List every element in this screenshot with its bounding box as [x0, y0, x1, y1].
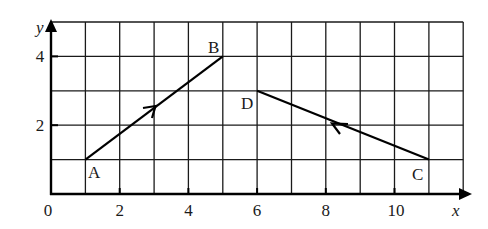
point-label-d: D [241, 94, 253, 113]
axes [45, 19, 472, 200]
grid [51, 22, 463, 194]
coordinate-diagram: 0 2 4 6 8 10 2 4 y x A B C D [0, 0, 488, 229]
point-label-a: A [88, 163, 101, 182]
y-axis-arrow-icon [45, 19, 57, 32]
y-tick-2: 2 [36, 116, 45, 135]
x-tick-8: 8 [322, 201, 331, 220]
x-tick-6: 6 [253, 201, 262, 220]
x-tick-2: 2 [115, 201, 124, 220]
point-label-b: B [208, 38, 219, 57]
y-tick-4: 4 [36, 47, 45, 66]
point-label-c: C [412, 165, 423, 184]
y-axis-label: y [34, 18, 44, 37]
x-tick-0: 0 [44, 201, 53, 220]
x-tick-10: 10 [388, 201, 405, 220]
x-axis-arrow-icon [459, 188, 472, 200]
x-tick-labels: 0 2 4 6 8 10 [44, 201, 405, 220]
y-tick-labels: 2 4 [36, 47, 45, 135]
x-axis-label: x [451, 201, 460, 220]
x-tick-4: 4 [184, 201, 193, 220]
